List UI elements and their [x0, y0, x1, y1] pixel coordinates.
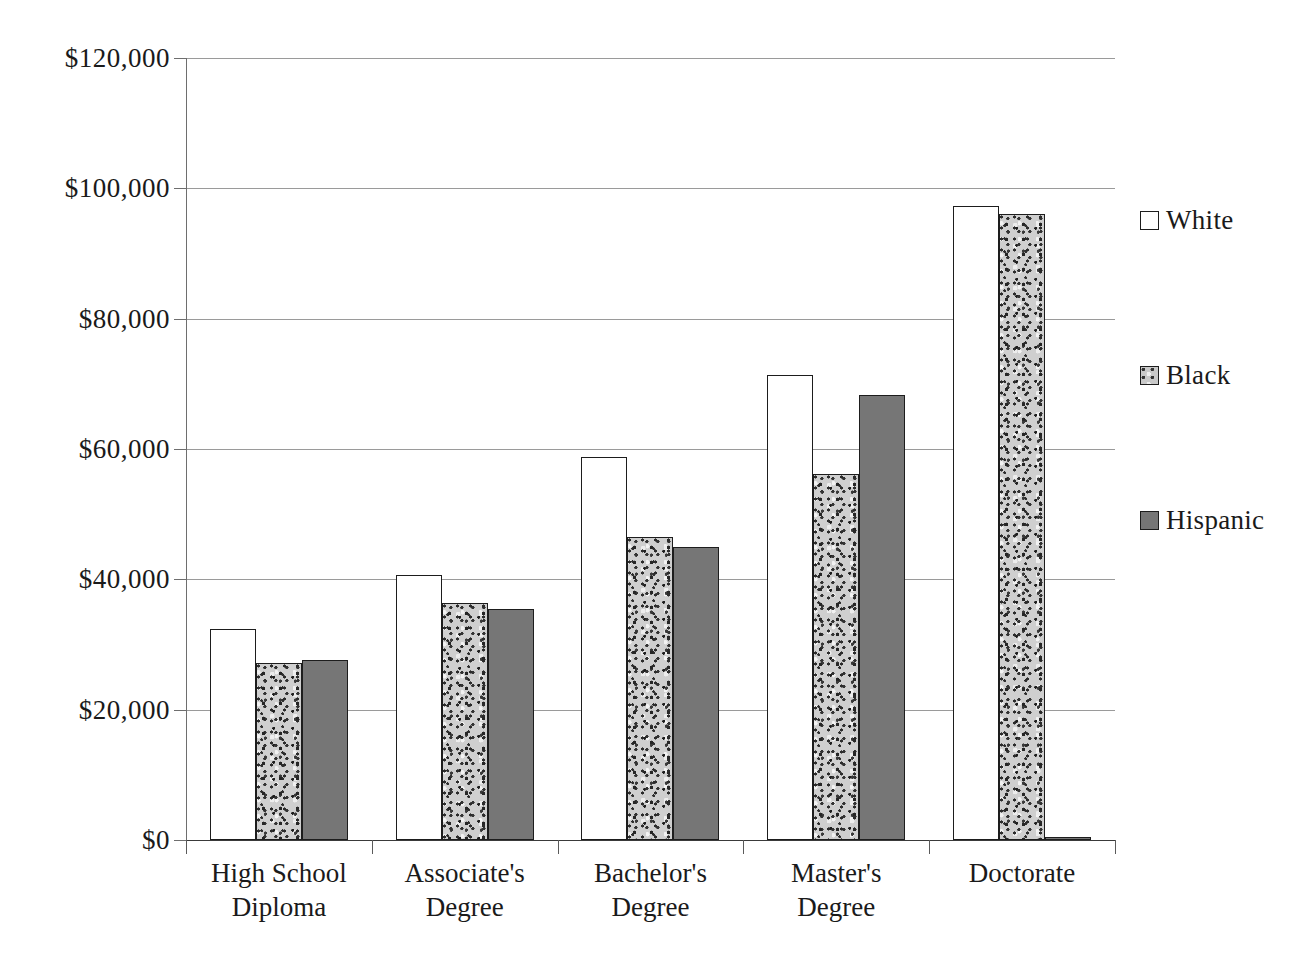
bar-hispanic-4	[1045, 837, 1091, 840]
x-axis-line	[186, 840, 1116, 841]
x-axis-tick	[186, 840, 187, 854]
x-axis-label: Associate's Degree	[372, 856, 558, 924]
y-axis-tick	[174, 188, 186, 189]
y-axis-tick-label: $80,000	[10, 303, 170, 334]
y-axis-tick	[174, 319, 186, 320]
x-axis-label: Bachelor's Degree	[558, 856, 744, 924]
legend-item-hispanic[interactable]: Hispanic	[1140, 505, 1264, 536]
bar-hispanic-1	[488, 609, 534, 840]
y-axis-tick	[174, 710, 186, 711]
legend-item-black[interactable]: Black	[1140, 360, 1230, 391]
bar-chart: $0$20,000$40,000$60,000$80,000$100,000$1…	[0, 0, 1308, 978]
y-axis-tick	[174, 840, 186, 841]
legend-swatch-icon	[1140, 366, 1159, 385]
chart-legend: WhiteBlackHispanic	[1136, 0, 1308, 978]
x-axis-tick	[929, 840, 930, 854]
legend-swatch-icon	[1140, 511, 1159, 530]
bar-white-2	[581, 457, 627, 840]
bar-group	[558, 58, 744, 840]
bar-white-3	[767, 375, 813, 840]
x-axis-label: Master's Degree	[743, 856, 929, 924]
x-axis-label: High School Diploma	[186, 856, 372, 924]
bar-black-0	[256, 663, 302, 840]
y-axis-tick-label: $100,000	[10, 173, 170, 204]
y-axis-tick	[174, 58, 186, 59]
legend-label: Black	[1166, 360, 1230, 391]
bar-hispanic-3	[859, 395, 905, 840]
bar-hispanic-0	[302, 660, 348, 840]
bar-group	[186, 58, 372, 840]
bar-black-3	[813, 474, 859, 840]
y-axis-tick-labels: $0$20,000$40,000$60,000$80,000$100,000$1…	[0, 0, 170, 978]
x-axis-tick	[372, 840, 373, 854]
figure-caption	[6, 966, 706, 978]
bar-black-4	[999, 214, 1045, 840]
x-axis-tick	[1115, 840, 1116, 854]
x-axis-tick	[743, 840, 744, 854]
bar-white-4	[953, 206, 999, 840]
bar-group	[929, 58, 1115, 840]
legend-item-white[interactable]: White	[1140, 205, 1233, 236]
bar-white-1	[396, 575, 442, 840]
legend-swatch-icon	[1140, 211, 1159, 230]
x-axis-label: Doctorate	[929, 856, 1115, 890]
bar-group	[743, 58, 929, 840]
legend-label: Hispanic	[1166, 505, 1264, 536]
y-axis-tick-label: $40,000	[10, 564, 170, 595]
y-axis-tick-label: $0	[10, 825, 170, 856]
y-axis-tick-label: $60,000	[10, 434, 170, 465]
y-axis-tick-label: $20,000	[10, 694, 170, 725]
legend-label: White	[1166, 205, 1233, 236]
bar-group	[372, 58, 558, 840]
bar-hispanic-2	[673, 547, 719, 840]
bar-black-2	[627, 537, 673, 840]
y-axis-tick	[174, 579, 186, 580]
bar-black-1	[442, 603, 488, 840]
y-axis-tick	[174, 449, 186, 450]
bar-white-0	[210, 629, 256, 840]
x-axis-tick	[558, 840, 559, 854]
y-axis-tick-label: $120,000	[10, 43, 170, 74]
